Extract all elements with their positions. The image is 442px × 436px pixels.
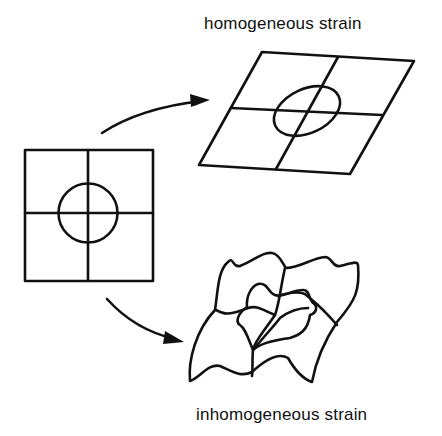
original-square-grid <box>25 150 153 281</box>
arrowhead-top-icon <box>190 94 210 107</box>
inhomogeneous-distorted-grid <box>190 253 359 382</box>
homogeneous-strain-label: homogeneous strain <box>204 14 362 34</box>
inhomogeneous-strain-label: inhomogeneous strain <box>196 405 367 425</box>
arrowhead-bottom-icon <box>163 331 184 344</box>
arrow-to-homogeneous <box>102 101 202 133</box>
strain-diagram: homogeneous strain inhomogeneous strain <box>0 0 442 436</box>
homogeneous-parallelogram-grid <box>199 52 414 174</box>
diagram-graphics <box>0 0 442 436</box>
